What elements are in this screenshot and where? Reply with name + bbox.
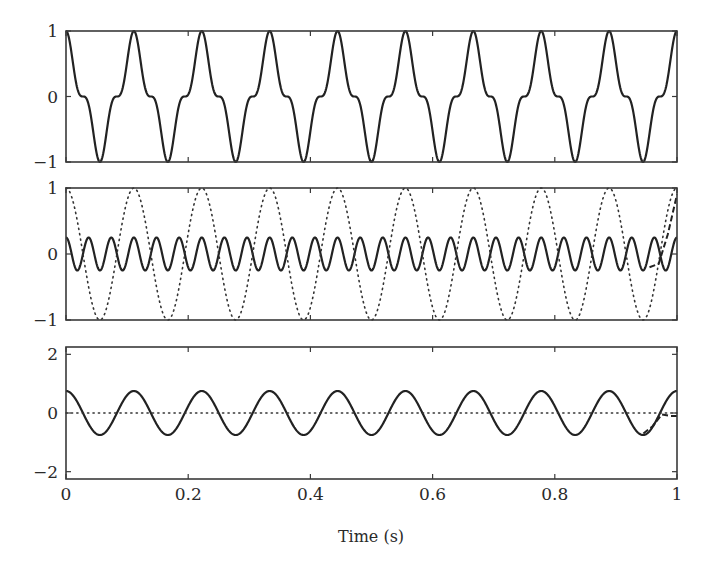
series-solid-line bbox=[66, 31, 677, 162]
series-dotted-line bbox=[66, 188, 677, 320]
panel-middle-components: −101 bbox=[33, 178, 677, 330]
x-tick-label: 0.2 bbox=[175, 484, 202, 504]
x-tick-label: 0 bbox=[61, 484, 72, 504]
series-solid-line bbox=[66, 238, 677, 271]
y-tick-label: 1 bbox=[47, 178, 58, 198]
x-tick-label: 0.8 bbox=[541, 484, 568, 504]
panel-bottom-fundamental: −202 bbox=[33, 344, 677, 481]
y-tick-label: 0 bbox=[47, 87, 58, 107]
plot-frame bbox=[66, 188, 677, 320]
plot-frame bbox=[66, 31, 677, 162]
series-dashed-line bbox=[643, 414, 677, 433]
y-tick-label: 0 bbox=[47, 403, 58, 423]
x-axis-title: Time (s) bbox=[338, 527, 404, 546]
x-tick-label: 0.4 bbox=[297, 484, 324, 504]
x-tick-label: 0.6 bbox=[419, 484, 446, 504]
y-tick-label: 2 bbox=[47, 344, 58, 364]
panel-top-signal: −101 bbox=[33, 21, 677, 172]
y-tick-label: 1 bbox=[47, 21, 58, 41]
y-tick-label: −2 bbox=[33, 462, 58, 482]
figure: −101 −101 −202 00.20.40.60.81 Time (s) bbox=[0, 0, 709, 570]
y-tick-label: −1 bbox=[33, 310, 58, 330]
y-tick-label: −1 bbox=[33, 152, 58, 172]
x-tick-label: 1 bbox=[672, 484, 683, 504]
y-tick-label: 0 bbox=[47, 244, 58, 264]
x-tick-labels: 00.20.40.60.81 bbox=[61, 484, 683, 504]
